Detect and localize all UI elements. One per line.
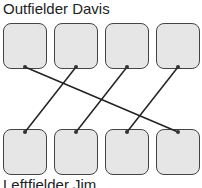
bottom-box-1 (3, 129, 47, 175)
bottom-box-2 (54, 129, 98, 175)
top-box-4 (156, 23, 200, 69)
connection-top1-bottom4 (25, 67, 178, 132)
bottom-box-4 (156, 129, 200, 175)
bottom-box-3 (105, 129, 149, 175)
connection-top4-bottom3 (127, 67, 178, 132)
top-group-label: Outfielder Davis (3, 0, 110, 17)
top-box-2 (54, 23, 98, 69)
bottom-group-label: Leftfielder Jim (3, 176, 96, 188)
connection-top3-bottom2 (76, 67, 127, 132)
connection-top2-bottom1 (25, 67, 76, 132)
top-box-3 (105, 23, 149, 69)
top-box-1 (3, 23, 47, 69)
